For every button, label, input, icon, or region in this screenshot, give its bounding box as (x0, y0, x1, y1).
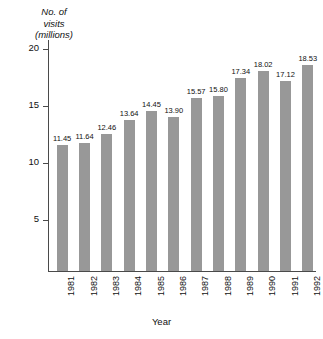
y-tick-label: 15 (28, 99, 39, 110)
y-axis-line (48, 40, 49, 272)
x-tick-label: 1990 (267, 276, 277, 296)
x-tick-label: 1988 (223, 276, 233, 296)
x-tick-label: 1986 (178, 276, 188, 296)
y-tick-mark (43, 163, 49, 164)
bar-value-label: 13.64 (120, 109, 139, 118)
bar: 18.02 (258, 71, 269, 271)
plot-area: 5101520 11.4511.6412.4613.6414.4513.9015… (48, 40, 316, 272)
bar-value-label: 15.57 (187, 87, 206, 96)
x-axis-line (48, 271, 316, 272)
bar: 18.53 (302, 65, 313, 271)
bar: 17.12 (280, 81, 291, 271)
bar: 14.45 (146, 111, 157, 271)
y-tick-mark (43, 220, 49, 221)
x-tick-label: 1985 (156, 276, 166, 296)
y-tick-mark (43, 49, 49, 50)
x-tick-label: 1987 (200, 276, 210, 296)
x-tick-label: 1983 (111, 276, 121, 296)
y-tick: 20 (43, 49, 49, 50)
bar-value-label: 15.80 (209, 85, 228, 94)
x-tick-label: 1984 (133, 276, 143, 296)
x-tick-label: 1981 (66, 276, 76, 296)
y-tick: 10 (43, 163, 49, 164)
bar-value-label: 11.64 (75, 132, 93, 141)
bar-value-label: 11.45 (53, 134, 71, 143)
x-axis-title: Year (0, 316, 323, 327)
y-tick-mark (43, 106, 49, 107)
bar: 12.46 (101, 134, 112, 271)
bar-value-label: 12.46 (97, 123, 116, 132)
bar: 13.90 (168, 117, 179, 271)
y-tick-label: 10 (28, 156, 39, 167)
bar-value-label: 17.12 (276, 70, 295, 79)
bar-value-label: 14.45 (142, 100, 161, 109)
y-axis-title: No. of visits (millions) (12, 6, 96, 41)
x-tick-label: 1982 (89, 276, 99, 296)
bar: 15.57 (191, 98, 202, 271)
bar: 13.64 (124, 120, 135, 271)
bar: 17.34 (235, 78, 246, 271)
x-tick-label: 1991 (290, 276, 300, 296)
x-tick-label: 1989 (245, 276, 255, 296)
bar: 11.64 (79, 143, 90, 271)
y-tick: 5 (43, 220, 49, 221)
y-tick-label: 20 (28, 42, 39, 53)
bar-value-label: 18.02 (254, 60, 273, 69)
y-tick-label: 5 (34, 213, 39, 224)
bar-value-label: 13.90 (164, 106, 183, 115)
y-tick: 15 (43, 106, 49, 107)
x-tick-label: 1992 (312, 276, 322, 296)
bar-value-label: 17.34 (231, 67, 250, 76)
bar-value-label: 18.53 (298, 54, 317, 63)
bar: 11.45 (57, 145, 68, 271)
bar-chart: No. of visits (millions) 5101520 11.4511… (0, 0, 323, 339)
bar: 15.80 (213, 96, 224, 271)
